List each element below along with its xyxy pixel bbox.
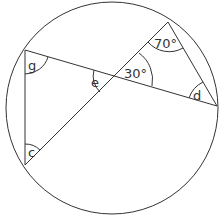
geometry-diagram: g e c d 70° 30° bbox=[0, 0, 224, 215]
label-e: e bbox=[91, 75, 99, 90]
label-d: d bbox=[193, 88, 201, 103]
label-c: c bbox=[28, 145, 35, 160]
label-g: g bbox=[28, 58, 36, 73]
label-angle-70: 70° bbox=[154, 36, 177, 51]
label-angle-30: 30° bbox=[124, 66, 147, 81]
circle bbox=[6, 2, 218, 214]
chord-top-left-to-right bbox=[25, 50, 217, 106]
chord-bottom-left-to-top-right bbox=[25, 22, 168, 165]
